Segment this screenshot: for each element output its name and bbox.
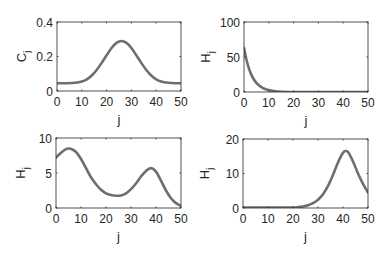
x-tick-label: 40 (150, 95, 164, 109)
y-axis-label: Hj (13, 167, 31, 178)
x-tick-label: 0 (241, 96, 248, 110)
x-tick-label: 20 (286, 212, 300, 226)
x-tick-label: 0 (53, 212, 60, 226)
y-tick-label: 10 (39, 132, 53, 146)
y-tick-label: 0 (232, 202, 239, 216)
x-tick-label: 0 (54, 95, 61, 109)
x-tick-label: 10 (261, 212, 275, 226)
y-tick-label: 10 (226, 167, 240, 181)
y-tick-label: 20 (226, 133, 240, 147)
x-axis-label: j (303, 229, 307, 244)
subplot-bottom-left: 010203040500510jHj (13, 132, 188, 245)
axes-frame (56, 138, 181, 208)
x-tick-label: 50 (361, 212, 375, 226)
x-tick-label: 20 (287, 96, 301, 110)
x-tick-label: 10 (262, 96, 276, 110)
x-tick-label: 50 (174, 212, 188, 226)
x-tick-label: 20 (100, 95, 114, 109)
x-tick-label: 10 (74, 212, 88, 226)
x-tick-label: 0 (240, 212, 247, 226)
x-tick-label: 40 (337, 96, 351, 110)
data-line (57, 41, 181, 83)
x-tick-label: 50 (174, 95, 188, 109)
x-tick-label: 30 (311, 212, 325, 226)
subplot-top-right: 01020304050050100jHj (198, 16, 375, 129)
data-line (244, 48, 368, 92)
x-tick-label: 30 (125, 95, 139, 109)
subplot-top-left: 0102030405000.20.4jCj (14, 16, 188, 128)
x-tick-label: 20 (99, 212, 113, 226)
y-tick-label: 0 (45, 202, 52, 216)
y-tick-label: 0.2 (36, 50, 53, 64)
x-axis-label: j (304, 113, 308, 128)
subplot-bottom-right: 0102030405001020jHj (197, 133, 375, 245)
y-tick-label: 0.4 (36, 16, 53, 30)
data-line (56, 148, 181, 205)
x-tick-label: 10 (75, 95, 89, 109)
x-tick-label: 30 (312, 96, 326, 110)
figure: 0102030405000.20.4jCj 01020304050050100j… (0, 0, 386, 254)
data-line (243, 151, 368, 208)
x-tick-label: 30 (124, 212, 138, 226)
axes-frame (244, 22, 368, 92)
x-tick-label: 40 (336, 212, 350, 226)
x-axis-label: j (116, 229, 120, 244)
y-tick-label: 5 (45, 167, 52, 181)
y-tick-label: 50 (227, 51, 241, 65)
y-axis-label: Hj (197, 168, 215, 179)
x-axis-label: j (117, 112, 121, 127)
x-tick-label: 50 (361, 96, 375, 110)
y-tick-label: 0 (233, 86, 240, 100)
y-axis-label: Hj (198, 51, 216, 62)
y-axis-label: Cj (14, 51, 32, 62)
x-tick-label: 40 (149, 212, 163, 226)
y-tick-label: 0 (46, 85, 53, 99)
axes-frame (243, 139, 368, 208)
y-tick-label: 100 (220, 16, 240, 30)
